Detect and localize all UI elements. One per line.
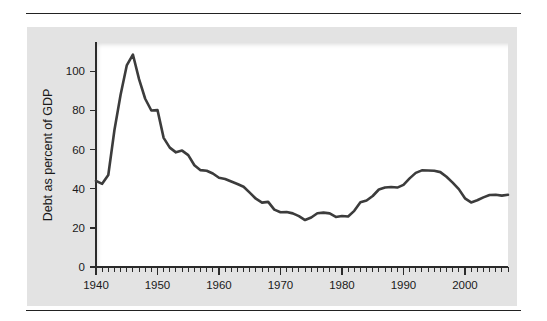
x-tick-label: 1960 [206,279,232,291]
x-tick-group: 1940195019601970198019902000 [83,267,478,291]
x-tick-label: 1970 [268,279,294,291]
y-tick-label: 40 [72,183,85,195]
x-tick-label: 1950 [145,279,171,291]
x-tick-label: 1940 [83,279,109,291]
y-tick-label: 100 [66,65,85,77]
y-tick-label: 20 [72,222,85,234]
y-tick-group: 020406080100 [66,65,96,273]
x-tick-label: 2000 [452,279,478,291]
line-chart: 020406080100 194019501960197019801990200… [0,0,547,321]
y-tick-label: 60 [72,144,85,156]
x-tick-label: 1980 [329,279,355,291]
x-tick-label: 1990 [391,279,417,291]
debt-series-line [96,55,508,221]
y-tick-label: 0 [79,261,85,273]
y-tick-label: 80 [72,104,85,116]
y-axis-title: Debt as percent of GDP [41,89,55,222]
figure-root: 020406080100 194019501960197019801990200… [0,0,547,321]
